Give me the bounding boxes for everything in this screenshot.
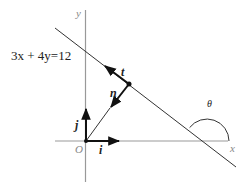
equation-label: 3x + 4y=12 (11, 49, 71, 62)
n-vector-label: n (110, 87, 117, 99)
theta-arc (190, 119, 229, 141)
theta-label: θ (207, 99, 212, 109)
x-axis-label: x (230, 143, 235, 154)
i-vector-label: i (99, 144, 102, 156)
origin-point (84, 139, 88, 143)
point-on-line (127, 82, 132, 87)
t-vector (105, 66, 129, 84)
t-vector-label: t (121, 66, 124, 78)
origin-to-point-line (86, 108, 110, 141)
origin-label: O (75, 144, 83, 155)
y-axis-label: y (76, 8, 81, 19)
j-vector-label: j (75, 119, 78, 131)
diagram-canvas (0, 0, 250, 188)
